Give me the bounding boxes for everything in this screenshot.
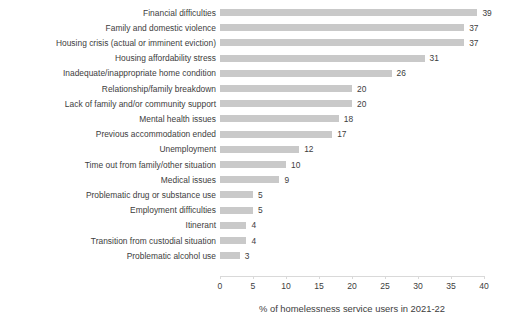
- x-axis-tick-label: 0: [208, 281, 232, 292]
- bar: [220, 55, 425, 62]
- x-axis-tick-mark: [385, 276, 386, 279]
- bar-group: 20: [220, 81, 366, 96]
- bar: [220, 131, 332, 138]
- category-label: Problematic drug or substance use: [0, 190, 216, 200]
- bar-value-label: 31: [430, 53, 439, 63]
- bar-row: Transition from custodial situation4: [0, 233, 506, 248]
- bar-row: Housing affordability stress31: [0, 51, 506, 66]
- bar-value-label: 37: [469, 38, 478, 48]
- category-label: Previous accommodation ended: [0, 129, 216, 139]
- bar-value-label: 39: [482, 8, 491, 18]
- x-axis-tick-label: 10: [274, 281, 298, 292]
- bar-group: 39: [220, 5, 492, 20]
- bar-group: 31: [220, 51, 439, 66]
- bar-value-label: 26: [397, 68, 406, 78]
- x-axis-tick-mark: [253, 276, 254, 279]
- x-axis-tick-mark: [220, 276, 221, 279]
- bar-group: 18: [220, 111, 353, 126]
- bar-row: Itinerant4: [0, 218, 506, 233]
- bar-value-label: 12: [304, 144, 313, 154]
- bar-group: 5: [220, 203, 263, 218]
- category-label: Family and domestic violence: [0, 23, 216, 33]
- bar: [220, 176, 279, 183]
- bar: [220, 252, 240, 259]
- bar-value-label: 20: [357, 84, 366, 94]
- bar-group: 5: [220, 187, 263, 202]
- bar-value-label: 4: [251, 220, 256, 230]
- category-label: Relationship/family breakdown: [0, 84, 216, 94]
- bar-value-label: 4: [251, 236, 256, 246]
- bar-group: 4: [220, 233, 256, 248]
- bar-row: Housing crisis (actual or imminent evict…: [0, 35, 506, 50]
- bar-group: 37: [220, 35, 479, 50]
- x-axis-tick-label: 25: [373, 281, 397, 292]
- bar: [220, 100, 352, 107]
- category-label: Unemployment: [0, 144, 216, 154]
- bar-row: Medical issues9: [0, 172, 506, 187]
- category-label: Medical issues: [0, 175, 216, 185]
- bar: [220, 161, 286, 168]
- bar-row: Problematic alcohol use3: [0, 248, 506, 263]
- bar-row: Mental health issues18: [0, 111, 506, 126]
- bar: [220, 70, 392, 77]
- category-label: Transition from custodial situation: [0, 236, 216, 246]
- x-axis-tick-mark: [418, 276, 419, 279]
- bar-chart: Financial difficulties39Family and domes…: [0, 0, 506, 328]
- bar-row: Inadequate/inappropriate home condition2…: [0, 66, 506, 81]
- bar-group: 20: [220, 96, 366, 111]
- bar-value-label: 9: [284, 175, 289, 185]
- x-axis-tick-label: 20: [340, 281, 364, 292]
- bar: [220, 237, 246, 244]
- bar-row: Problematic drug or substance use5: [0, 187, 506, 202]
- x-axis-tick-mark: [451, 276, 452, 279]
- bar-value-label: 5: [258, 205, 263, 215]
- x-axis-tick-mark: [319, 276, 320, 279]
- bar-row: Financial difficulties39: [0, 5, 506, 20]
- bar-group: 37: [220, 20, 479, 35]
- bar: [220, 39, 464, 46]
- bar-value-label: 37: [469, 23, 478, 33]
- bar: [220, 146, 299, 153]
- category-label: Itinerant: [0, 220, 216, 230]
- category-label: Mental health issues: [0, 114, 216, 124]
- bar-row: Lack of family and/or community support2…: [0, 96, 506, 111]
- category-label: Housing affordability stress: [0, 53, 216, 63]
- x-axis-tick-mark: [484, 276, 485, 279]
- bar: [220, 85, 352, 92]
- bar: [220, 24, 464, 31]
- bar: [220, 191, 253, 198]
- bar-group: 12: [220, 142, 314, 157]
- x-axis-tick-mark: [286, 276, 287, 279]
- bar-group: 9: [220, 172, 289, 187]
- category-label: Employment difficulties: [0, 205, 216, 215]
- bar-value-label: 17: [337, 129, 346, 139]
- bar-group: 4: [220, 218, 256, 233]
- bar: [220, 207, 253, 214]
- category-label: Inadequate/inappropriate home condition: [0, 68, 216, 78]
- bar-value-label: 18: [344, 114, 353, 124]
- bar-value-label: 3: [245, 251, 250, 261]
- bar-value-label: 20: [357, 99, 366, 109]
- bar-row: Relationship/family breakdown20: [0, 81, 506, 96]
- bar: [220, 115, 339, 122]
- category-label: Problematic alcohol use: [0, 251, 216, 261]
- x-axis-tick-mark: [352, 276, 353, 279]
- bar-row: Unemployment12: [0, 142, 506, 157]
- x-axis-title: % of homelessness service users in 2021-…: [220, 302, 484, 315]
- bar-row: Family and domestic violence37: [0, 20, 506, 35]
- bar-value-label: 10: [291, 160, 300, 170]
- bar-row: Employment difficulties5: [0, 203, 506, 218]
- x-axis-tick-label: 35: [439, 281, 463, 292]
- bar: [220, 9, 477, 16]
- bar: [220, 222, 246, 229]
- bar-group: 10: [220, 157, 300, 172]
- bar-row: Previous accommodation ended17: [0, 127, 506, 142]
- bar-value-label: 5: [258, 190, 263, 200]
- category-label: Lack of family and/or community support: [0, 99, 216, 109]
- bar-group: 3: [220, 248, 249, 263]
- bar-group: 17: [220, 127, 347, 142]
- bar-row: Time out from family/other situation10: [0, 157, 506, 172]
- x-axis-tick-label: 30: [406, 281, 430, 292]
- x-axis-tick-label: 15: [307, 281, 331, 292]
- x-axis-tick-label: 40: [472, 281, 496, 292]
